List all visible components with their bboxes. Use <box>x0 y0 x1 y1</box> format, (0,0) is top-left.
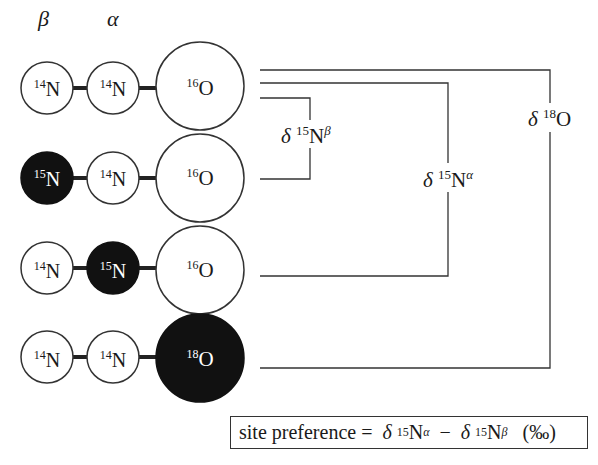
delta-18o-label: δ 18O <box>528 107 571 130</box>
atom-label: 15N <box>34 168 60 189</box>
atom-label: 14N <box>100 349 126 370</box>
atom-label: 16O <box>186 77 213 99</box>
atom-label: 16O <box>186 167 213 189</box>
atom-label: 14N <box>100 78 126 99</box>
atom-label: 18O <box>186 348 213 370</box>
isotopologue-diagram <box>0 0 598 465</box>
atom-label: 14N <box>34 260 60 281</box>
alpha-position-label: α <box>107 8 119 30</box>
atom-label: 14N <box>34 349 60 370</box>
atom-label: 14N <box>100 168 126 189</box>
bonds <box>73 88 156 357</box>
delta-15n-alpha-label: δ 15Nα <box>423 168 473 191</box>
delta-15n-beta-label: δ 15Nβ <box>281 124 331 147</box>
atom-label: 16O <box>186 259 213 281</box>
atom-label: 14N <box>34 78 60 99</box>
connector-lines <box>260 70 550 368</box>
site-preference-formula: site preference = δ 15Nα − δ 15Nβ (‰) <box>230 416 588 449</box>
beta-position-label: β <box>38 8 49 30</box>
atom-label: 15N <box>100 260 126 281</box>
